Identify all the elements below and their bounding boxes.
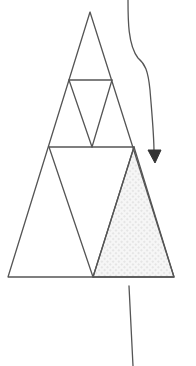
curved-arrow-line <box>128 0 154 152</box>
shaded-triangle <box>93 147 174 277</box>
diagram-canvas <box>0 0 196 366</box>
arrow-down-icon <box>148 150 161 163</box>
lower-inner-left-edge <box>49 147 93 277</box>
upper-inner-right-edge <box>92 80 112 147</box>
vertical-line <box>129 286 133 366</box>
upper-inner-left-edge <box>69 80 92 147</box>
